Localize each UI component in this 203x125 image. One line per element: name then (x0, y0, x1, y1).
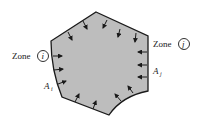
area-j-label: A j (152, 66, 162, 77)
zone-j-label: Zone j (153, 39, 190, 50)
zone-i-label: Zone i (12, 51, 49, 62)
svg-text:Zone: Zone (12, 51, 31, 61)
svg-text:i: i (42, 51, 45, 61)
svg-text:j: j (159, 71, 162, 77)
svg-text:j: j (181, 39, 185, 49)
svg-text:A: A (43, 81, 50, 91)
zone-diagram: Zone i Zone j A i A j (0, 0, 203, 125)
svg-text:i: i (51, 86, 53, 92)
svg-text:A: A (152, 66, 159, 76)
area-i-label: A i (43, 81, 53, 92)
zone-polygon (51, 12, 148, 115)
svg-text:Zone: Zone (153, 39, 172, 49)
